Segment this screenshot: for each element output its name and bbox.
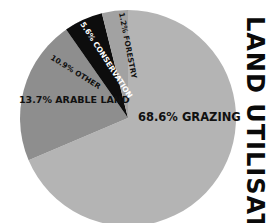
label-arable-land: 13.7% ARABLE LAND bbox=[19, 94, 130, 105]
chart-title: LAND UTILISATION bbox=[240, 16, 270, 206]
pie-chart: 68.6% GRAZING 13.7% ARABLE LAND 10.9% OT… bbox=[0, 0, 274, 223]
label-grazing: 68.6% GRAZING bbox=[138, 110, 241, 124]
